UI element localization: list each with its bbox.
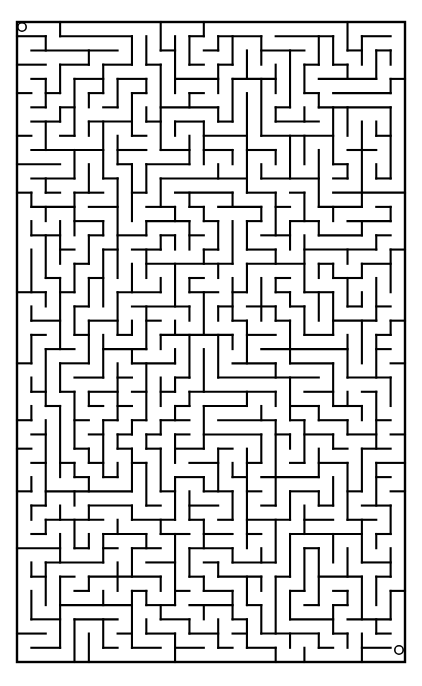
maze-background bbox=[0, 0, 422, 686]
maze-page bbox=[0, 0, 422, 686]
maze-canvas bbox=[0, 0, 422, 686]
